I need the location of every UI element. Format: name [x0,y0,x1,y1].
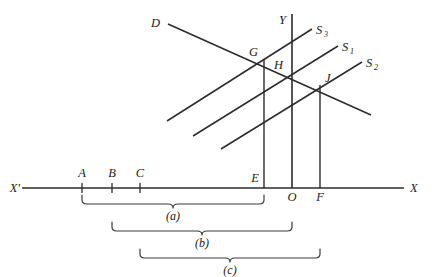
demand-curve-label: D [150,16,160,30]
brace-c-label: (c) [223,263,236,277]
x-axis-label: X [409,181,419,195]
brace-a-path [82,195,264,208]
x-prime-axis-label: X' [9,181,21,195]
supply-demand-figure: D S 3 S 1 S 2 X X' Y G H J A B C E O F (… [0,0,434,277]
brace-a-label: (a) [166,209,180,223]
axis-point-label-C: C [136,166,145,180]
supply-curve-2-label: S [366,56,373,70]
brace-c-path [140,249,320,262]
supply-curve-1-label: S [342,40,349,54]
brace-b-path [112,222,292,235]
point-label-J: J [325,71,332,85]
supply-curve-3-label: S [316,23,323,37]
axis-point-label-B: B [108,166,116,180]
supply-curve-2-subscript: 2 [374,63,378,72]
point-label-G: G [249,45,258,59]
axis-point-label-F: F [315,190,324,204]
diagram-canvas: D S 3 S 1 S 2 X X' Y G H J A B C E O F (… [0,0,434,277]
point-label-H: H [273,58,284,72]
supply-curve-3-subscript: 3 [323,30,328,39]
brace-b-label: (b) [195,236,209,250]
axis-point-label-A: A [77,166,86,180]
axis-point-label-E: E [250,171,259,185]
supply-curve-1-subscript: 1 [350,47,354,56]
y-axis-label: Y [279,13,288,27]
axis-point-label-O: O [287,190,296,204]
